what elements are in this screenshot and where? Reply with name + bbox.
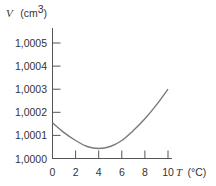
volume-curve	[53, 89, 169, 148]
x-tick-label: 6	[119, 166, 125, 178]
y-tick-label: 1,0001	[15, 129, 47, 141]
y-tick-label: 1,0000	[15, 153, 47, 165]
x-axis-label-symbol: T	[176, 166, 183, 178]
x-axis-label-unit: (°C)	[188, 166, 207, 178]
y-axis-label-unit-close: )	[44, 7, 48, 19]
y-tick-label: 1,0005	[15, 37, 47, 49]
x-tick-label: 4	[96, 166, 102, 178]
y-tick-label: 1,0004	[15, 60, 47, 72]
y-axis-label-symbol: V	[6, 7, 14, 19]
x-tick-label: 2	[73, 166, 79, 178]
volume-temperature-chart: V (cm3) 1,00001,00011,00021,00031,00041,…	[0, 0, 216, 186]
y-tick-label: 1,0002	[15, 106, 47, 118]
y-axis-label: V (cm3)	[6, 3, 47, 20]
x-tick-label: 10	[162, 166, 174, 178]
y-tick-label: 1,0003	[15, 83, 47, 95]
x-axis-label: T (°C)	[176, 162, 206, 179]
y-axis-label-unit: (cm	[20, 7, 38, 19]
x-axis-ticks: 0246810	[50, 151, 174, 179]
y-axis-ticks: 1,00001,00011,00021,00031,00041,0005	[15, 37, 61, 165]
x-tick-label: 0	[50, 166, 56, 178]
x-tick-label: 8	[142, 166, 148, 178]
